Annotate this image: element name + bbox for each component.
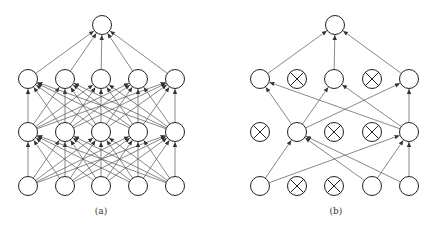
panel-b-label: (b) xyxy=(330,206,343,216)
neuron-node xyxy=(129,177,148,196)
connection-edge xyxy=(269,82,400,128)
panel-a-label: (a) xyxy=(95,206,107,216)
neuron-node xyxy=(129,123,148,142)
connection-edge xyxy=(342,85,401,127)
dropped-neuron-icon xyxy=(251,123,270,142)
connection-edge xyxy=(101,35,102,70)
neuron-node xyxy=(19,123,38,142)
neuron-node xyxy=(326,16,345,35)
connection-edge xyxy=(266,87,292,124)
connection-edge xyxy=(306,136,400,182)
neuron-node xyxy=(363,177,382,196)
neuron-node xyxy=(93,16,112,35)
connection-edge xyxy=(343,31,401,74)
neuron-node xyxy=(251,70,270,89)
neuron-node xyxy=(19,177,38,196)
neuron-node xyxy=(56,70,75,89)
neuron-node xyxy=(400,123,419,142)
neuron-node xyxy=(56,177,75,196)
neuron-node xyxy=(92,70,111,89)
dropped-neuron-icon xyxy=(288,70,307,89)
neuron-node xyxy=(288,123,307,142)
neuron-node xyxy=(56,123,75,142)
connection-edge xyxy=(305,138,364,181)
neuron-node xyxy=(166,123,185,142)
dropped-neuron-icon xyxy=(288,177,307,196)
connection-edge xyxy=(306,83,400,128)
neuron-node xyxy=(251,177,270,196)
neuron-node xyxy=(166,177,185,196)
neuron-node xyxy=(166,70,185,89)
connection-edge xyxy=(110,31,167,73)
dropout-diagram xyxy=(0,0,431,225)
dropped-neuron-icon xyxy=(325,177,344,196)
connection-edge xyxy=(108,33,133,71)
connection-edge xyxy=(268,31,327,74)
dropped-neuron-icon xyxy=(363,70,382,89)
neuron-node xyxy=(400,177,419,196)
dropped-neuron-icon xyxy=(325,123,344,142)
neuron-node xyxy=(325,70,344,89)
connection-edge xyxy=(265,140,291,178)
connection-edge xyxy=(334,35,335,70)
connection-edge xyxy=(36,31,94,74)
neuron-node xyxy=(92,177,111,196)
neuron-node xyxy=(129,70,148,89)
dropped-neuron-icon xyxy=(363,123,382,142)
neuron-node xyxy=(400,70,419,89)
neuron-node xyxy=(19,70,38,89)
neuron-node xyxy=(92,123,111,142)
